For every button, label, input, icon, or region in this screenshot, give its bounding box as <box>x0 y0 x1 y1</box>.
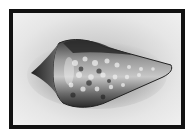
photo-frame <box>9 9 185 129</box>
shell-photo <box>13 13 181 125</box>
cone-shell-image <box>13 13 181 125</box>
